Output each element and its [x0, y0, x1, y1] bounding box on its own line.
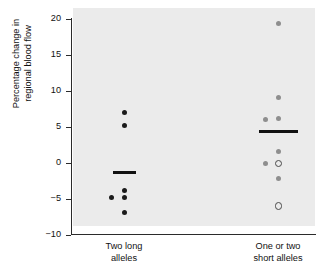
y-tick-label: 20 [21, 13, 61, 23]
data-point-filled [109, 195, 114, 200]
y-tick-label: −10 [21, 229, 61, 239]
data-point-filled [122, 188, 127, 193]
data-point-filled [263, 117, 268, 122]
y-axis-line [71, 18, 72, 235]
y-tick-mark [66, 55, 71, 56]
y-axis-title: Percentage change in regional blood flow [11, 0, 34, 164]
data-point-filled [122, 110, 127, 115]
y-tick-label: 0 [21, 157, 61, 167]
data-point-filled [122, 195, 127, 200]
data-point-filled [122, 210, 127, 215]
data-point-filled [276, 176, 281, 181]
y-tick-label: 15 [21, 49, 61, 59]
data-point-filled [263, 161, 268, 166]
y-tick-label: 10 [21, 85, 61, 95]
data-point-filled [276, 116, 281, 121]
mean-line [113, 171, 136, 173]
y-tick-mark [66, 19, 71, 20]
y-tick-mark [66, 235, 71, 236]
data-point-filled [276, 95, 281, 100]
y-tick-mark [66, 91, 71, 92]
x-axis-line [71, 234, 316, 235]
data-point-filled [276, 149, 281, 154]
y-tick-mark [66, 199, 71, 200]
data-point-open [275, 202, 283, 210]
chart-figure: Percentage change in regional blood flow… [0, 0, 324, 269]
y-tick-label: 5 [21, 121, 61, 131]
y-tick-mark [66, 163, 71, 164]
y-tick-mark [66, 127, 71, 128]
y-tick-label: −5 [21, 193, 61, 203]
category-label: One or two short alleles [223, 241, 324, 264]
category-label: Two long alleles [69, 241, 179, 264]
data-point-filled [122, 123, 127, 128]
data-point-filled [276, 21, 281, 26]
mean-line [259, 130, 298, 132]
